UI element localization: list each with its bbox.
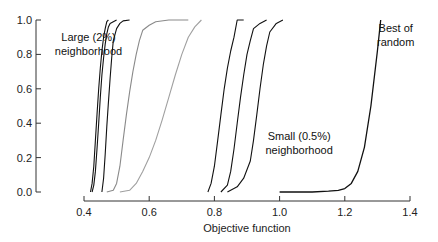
series-lines: [91, 20, 381, 192]
y-tick-label: 0.8: [17, 48, 32, 60]
y-tick-label: 0.2: [17, 152, 32, 164]
annotation-2: Best ofrandom: [377, 22, 414, 48]
series-large-gray-4: [120, 20, 201, 192]
x-tick-label: 0.6: [142, 206, 157, 218]
y-tick-label: 1.0: [17, 14, 32, 26]
series-random-8: [280, 20, 381, 192]
y-tick-label: 0.4: [17, 117, 32, 129]
x-tick-label: 1.2: [337, 206, 352, 218]
cdf-chart: 0.00.20.40.60.81.00.40.60.81.01.21.4 Lar…: [0, 0, 438, 242]
y-tick-label: 0.0: [17, 186, 32, 198]
x-tick-label: 0.4: [76, 206, 91, 218]
series-small-6: [221, 20, 267, 192]
x-tick-label: 1.4: [402, 206, 417, 218]
x-axis-title: Objective function: [203, 222, 290, 234]
x-tick-label: 0.8: [207, 206, 222, 218]
series-small-7: [227, 20, 283, 192]
annotation-0: Large (2%)neighborhood: [55, 31, 122, 57]
y-tick-label: 0.6: [17, 83, 32, 95]
series-small-5: [208, 20, 244, 192]
x-tick-label: 1.0: [272, 206, 287, 218]
annotation-1: Small (0.5%)neighborhood: [266, 130, 333, 156]
